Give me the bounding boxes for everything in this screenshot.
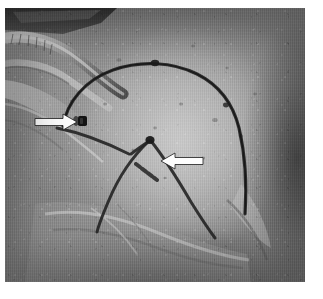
clinical-photograph — [5, 8, 305, 282]
vignette-layer — [5, 8, 305, 282]
figure-caption — [5, 284, 305, 297]
figure-root — [0, 0, 323, 299]
